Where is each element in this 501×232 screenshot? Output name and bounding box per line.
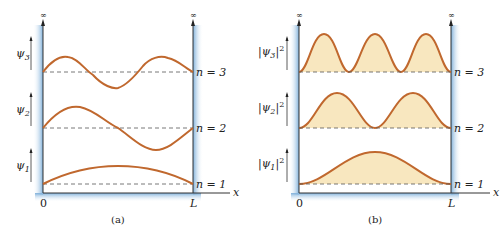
n1-label-b: n = 1 [454,178,484,191]
n1-label-a: n = 1 [196,178,226,191]
origin-label-b: 0 [296,197,303,210]
psi3-squared-label: |ψ3|2 [258,44,284,60]
psi3-curve [43,57,193,89]
x-label-b: x [493,186,500,199]
wavefunction-figure: ∞ ∞ ψ3 ψ2 ψ1 n = 3 n = 2 n = 1 x 0 L (a) [0,0,501,232]
caption-b: (b) [368,214,382,225]
infinity-right-a: ∞ [190,11,197,20]
panel-a: ∞ ∞ ψ3 ψ2 ψ1 n = 3 n = 2 n = 1 x 0 L (a) [16,11,240,225]
end-label-a: L [189,197,197,210]
bottom-wall [291,193,459,202]
caption-a: (a) [111,214,125,225]
n2-label-b: n = 2 [454,122,484,135]
n3-label-b: n = 3 [454,66,484,79]
n2-label-a: n = 2 [196,122,226,135]
left-wall [33,25,43,195]
psi1-curve [43,166,193,184]
panel-b: ∞ ∞ |ψ3|2 |ψ2|2 |ψ1|2 n = 3 n = 2 n = 1 … [258,11,500,225]
n3-label-a: n = 3 [196,66,226,79]
psi1-squared-fill [299,152,451,184]
infinity-right-b: ∞ [448,11,455,20]
psi1-squared-label: |ψ1|2 [258,156,284,172]
psi2-label: ψ2 [16,103,30,118]
end-label-b: L [447,197,455,210]
psi2-squared-fill [299,93,451,128]
infinity-left-b: ∞ [296,11,303,20]
infinity-left-a: ∞ [40,11,47,20]
psi1-label: ψ1 [16,159,30,174]
origin-label-a: 0 [40,197,47,210]
psi2-squared-label: |ψ2|2 [258,100,284,116]
right-wall [451,25,461,195]
x-label-a: x [233,186,240,199]
psi3-squared-fill [299,34,451,72]
psi3-label: ψ3 [16,47,30,62]
bottom-wall [35,193,201,202]
left-wall [289,25,299,195]
right-wall [193,25,203,195]
